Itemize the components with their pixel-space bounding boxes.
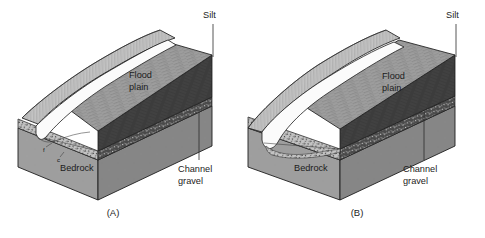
- floodplain-diagram-svg: f c Silt Flood plain Bedrock Channel gra…: [0, 0, 485, 238]
- bedrock-label-b: Bedrock: [294, 163, 328, 173]
- flood-plain-label-line1-a: Flood: [129, 70, 152, 80]
- panel-letter-b: (B): [351, 207, 364, 218]
- silt-label-a: Silt: [203, 10, 216, 20]
- silt-label-b: Silt: [446, 10, 459, 20]
- bedrock-label-a: Bedrock: [60, 163, 94, 173]
- channel-gravel-label-line1-b: Channel: [403, 164, 437, 174]
- channel-gravel-label-line2-a: gravel: [178, 176, 203, 186]
- figure-root: f c Silt Flood plain Bedrock Channel gra…: [0, 0, 485, 238]
- flood-plain-label-line2-a: plain: [129, 82, 148, 92]
- flood-plain-label-line2-b: plain: [382, 83, 401, 93]
- channel-gravel-label-line2-b: gravel: [403, 176, 428, 186]
- panel-letter-a: (A): [107, 207, 120, 218]
- flood-plain-label-line1-b: Flood: [382, 71, 405, 81]
- channel-gravel-label-line1-a: Channel: [178, 164, 212, 174]
